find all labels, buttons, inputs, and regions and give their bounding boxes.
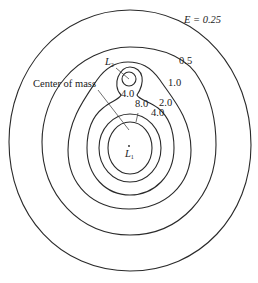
label-e-1-0: 1.0 [168,78,181,89]
label-e-0-25: E = 0.25 [184,15,221,26]
label-center-of-mass: Center of mass [33,79,96,90]
contour-diagram [0,0,258,283]
label-e-0-5: 0.5 [179,56,192,67]
l1-subscript: 1 [131,154,134,160]
label-e-4-0-l2: 4.0 [121,89,134,100]
contour-e-0-25 [9,10,251,271]
label-e-8-0: 8.0 [135,99,148,110]
label-l1: L1 [125,149,134,160]
l1-point [128,145,130,147]
label-l2: L2 [105,57,114,68]
l2-subscript: 2 [111,62,114,68]
label-e-4-0-l1: 4.0 [151,108,164,119]
